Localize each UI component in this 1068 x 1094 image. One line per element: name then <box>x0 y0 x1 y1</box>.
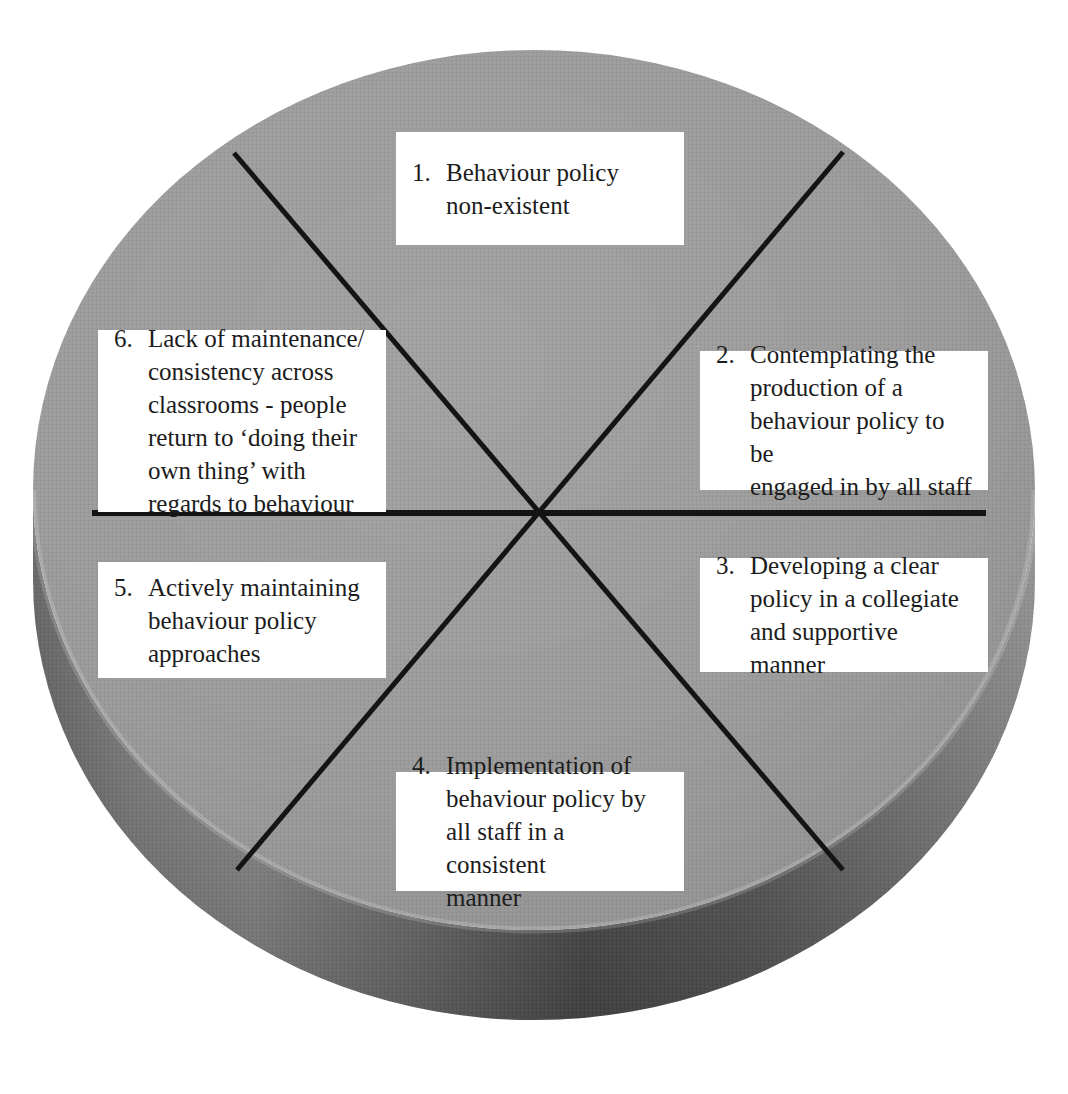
segment-label-4[interactable]: 4. Implementation of behaviour policy by… <box>396 772 684 891</box>
segment-label-6[interactable]: 6. Lack of maintenance/ consistency acro… <box>98 330 386 512</box>
segment-label-5[interactable]: 5. Actively maintaining behaviour policy… <box>98 562 386 678</box>
segment-number-1: 1. <box>412 156 446 189</box>
segment-label-2[interactable]: 2. Contemplating the production of a beh… <box>700 351 988 490</box>
segment-text-1: Behaviour policy non-existent <box>446 156 670 222</box>
segment-number-3: 3. <box>716 549 750 582</box>
segment-text-3: Developing a clear policy in a collegiat… <box>750 549 974 681</box>
segment-number-6: 6. <box>114 322 148 355</box>
segment-text-4: Implementation of behaviour policy by al… <box>446 749 670 914</box>
segment-number-2: 2. <box>716 338 750 371</box>
segment-number-5: 5. <box>114 571 148 604</box>
segment-text-6: Lack of maintenance/ consistency across … <box>148 322 372 520</box>
segment-number-4: 4. <box>412 749 446 782</box>
segment-label-1[interactable]: 1. Behaviour policy non-existent <box>396 132 684 245</box>
diagram-canvas: 1. Behaviour policy non-existent 2. Cont… <box>0 0 1068 1094</box>
segment-label-3[interactable]: 3. Developing a clear policy in a colleg… <box>700 558 988 672</box>
segment-text-2: Contemplating the production of a behavi… <box>750 338 974 503</box>
segment-text-5: Actively maintaining behaviour policy ap… <box>148 571 372 670</box>
